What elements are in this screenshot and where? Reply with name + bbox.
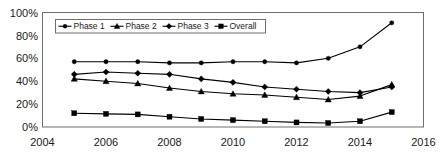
- data-point-marker: [135, 112, 140, 117]
- y-tick-label: 80%: [16, 30, 38, 42]
- x-tick-label: 2010: [221, 136, 245, 148]
- data-point-marker: [72, 111, 77, 116]
- chart-legend[interactable]: Phase 1Phase 2Phase 3Overall: [56, 20, 266, 34]
- data-point-marker: [136, 60, 140, 64]
- data-point-marker: [263, 60, 267, 64]
- data-point-marker: [358, 45, 362, 49]
- data-point-marker: [231, 118, 236, 123]
- x-tick-label: 2008: [157, 136, 181, 148]
- data-point-marker: [199, 61, 203, 65]
- data-point-marker: [262, 119, 267, 124]
- x-tick-label: 2004: [30, 136, 54, 148]
- x-tick-label: 2006: [94, 136, 118, 148]
- y-tick-label: 100%: [10, 7, 38, 19]
- data-point-marker: [104, 60, 108, 64]
- legend-label: Overall: [230, 21, 257, 31]
- x-tick-label: 2014: [348, 136, 372, 148]
- legend-marker-circle-icon: [63, 24, 67, 28]
- data-point-marker: [326, 120, 331, 125]
- y-tick-label: 0%: [22, 121, 38, 133]
- y-tick-label: 60%: [16, 52, 38, 64]
- data-point-marker: [390, 21, 394, 25]
- data-point-marker: [231, 60, 235, 64]
- data-point-marker: [199, 116, 204, 121]
- legend-label: Phase 2: [126, 21, 157, 31]
- x-tick-label: 2012: [284, 136, 308, 148]
- data-point-marker: [167, 61, 171, 65]
- data-point-marker: [104, 111, 109, 116]
- legend-marker-square-icon: [219, 24, 224, 29]
- y-tick-label: 20%: [16, 98, 38, 110]
- line-chart: 100% 80% 60% 40% 20% 0% 2004 2006 2008 2…: [0, 0, 440, 156]
- x-tick-label: 2016: [411, 136, 435, 148]
- data-point-marker: [326, 56, 330, 60]
- data-point-marker: [167, 114, 172, 119]
- chart-canvas: 100% 80% 60% 40% 20% 0% 2004 2006 2008 2…: [0, 0, 440, 156]
- legend-label: Phase 3: [178, 21, 209, 31]
- legend-label: Phase 1: [74, 21, 105, 31]
- data-point-marker: [72, 60, 76, 64]
- data-point-marker: [294, 61, 298, 65]
- y-tick-label: 40%: [16, 75, 38, 87]
- data-point-marker: [389, 110, 394, 115]
- data-point-marker: [358, 119, 363, 124]
- data-point-marker: [294, 120, 299, 125]
